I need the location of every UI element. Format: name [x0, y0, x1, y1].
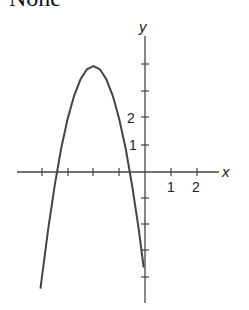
- x-axis-label: x: [221, 163, 230, 180]
- y-axis-label: y: [138, 18, 148, 35]
- y-tick-label-2: 2: [127, 110, 135, 126]
- parabola-chart: 1 2 2 1 x y: [0, 0, 249, 310]
- parabola-curve: [41, 66, 144, 289]
- x-tick-label-1: 1: [167, 179, 175, 195]
- x-tick-label-2: 2: [192, 179, 200, 195]
- y-tick-label-1: 1: [129, 137, 137, 153]
